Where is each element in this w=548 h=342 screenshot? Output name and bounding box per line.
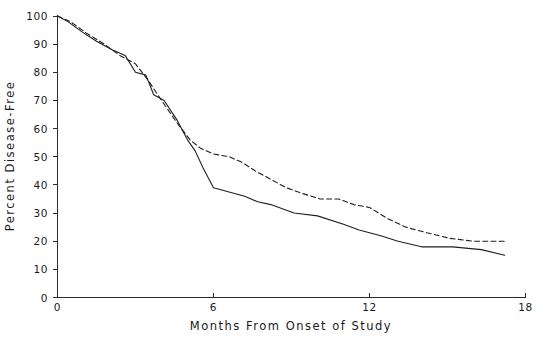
x-axis-title: Months From Onset of Study (190, 319, 392, 333)
y-tick-label: 30 (33, 207, 48, 219)
y-tick-label: 20 (33, 235, 48, 247)
y-tick-label: 50 (33, 151, 48, 163)
line-chart-plot: 0102030405060708090100 061218 Percent Di… (0, 0, 548, 342)
data-series-group (58, 16, 505, 255)
y-tick-label: 100 (26, 10, 48, 22)
series-solid-curve (58, 16, 505, 255)
x-tick-label: 12 (362, 301, 377, 313)
chart-figure: 0102030405060708090100 061218 Percent Di… (0, 0, 548, 342)
series-dashed-curve (58, 16, 505, 241)
x-tick-label: 0 (54, 301, 61, 313)
y-tick-label: 40 (33, 179, 48, 191)
y-tick-label: 0 (41, 292, 48, 304)
x-tick-label: 6 (210, 301, 217, 313)
x-axis-ticks: 061218 (54, 293, 533, 314)
y-tick-label: 60 (33, 123, 48, 135)
y-axis-ticks: 0102030405060708090100 (26, 10, 57, 304)
y-tick-label: 10 (33, 263, 48, 275)
y-tick-label: 80 (33, 66, 48, 78)
y-axis-title: Percent Disease-Free (3, 81, 17, 232)
y-tick-label: 90 (33, 38, 48, 50)
x-tick-label: 18 (518, 301, 533, 313)
y-tick-label: 70 (33, 94, 48, 106)
